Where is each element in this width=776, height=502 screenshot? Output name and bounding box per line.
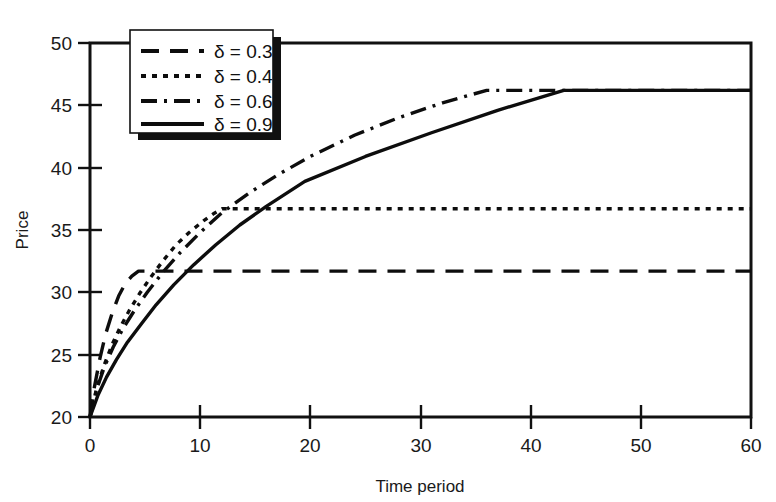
legend-label-delta-0-3: δ = 0.3 [214,41,273,62]
line-chart-svg: 50 45 40 35 30 25 20 0 10 20 30 40 50 60… [0,0,776,502]
legend: δ = 0.3 δ = 0.4 δ = 0.6 δ = 0.9 [130,30,281,140]
series-line-delta-0-4 [90,209,751,417]
y-tick-label-25: 25 [51,345,72,366]
legend-label-delta-0-9: δ = 0.9 [214,114,273,135]
y-tick-label-45: 45 [51,95,72,116]
y-tick-label-30: 30 [51,282,72,303]
series-line-delta-0-3 [90,271,751,417]
y-tick-label-40: 40 [51,158,72,179]
x-tick-label-60: 60 [740,435,761,456]
y-tick-label-20: 20 [51,407,72,428]
x-axis-title: Time period [375,477,464,496]
x-tick-label-10: 10 [189,435,210,456]
y-axis-title: Price [13,211,32,250]
x-tick-label-20: 20 [299,435,320,456]
x-tick-label-0: 0 [85,435,96,456]
legend-label-delta-0-4: δ = 0.4 [214,66,273,87]
y-tick-label-50: 50 [51,33,72,54]
x-tick-label-30: 30 [410,435,431,456]
legend-label-delta-0-6: δ = 0.6 [214,91,273,112]
x-tick-label-50: 50 [630,435,651,456]
chart-figure: 50 45 40 35 30 25 20 0 10 20 30 40 50 60… [0,0,776,502]
y-tick-label-35: 35 [51,220,72,241]
x-tick-label-40: 40 [520,435,541,456]
